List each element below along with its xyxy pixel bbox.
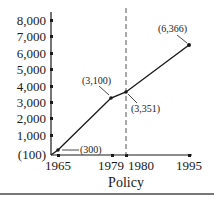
x-tick-label: 1995 <box>176 158 202 173</box>
y-tick-label: 6,000 <box>17 46 46 61</box>
x-tick-label: 1979 <box>98 158 124 173</box>
bottom-rule <box>0 193 214 195</box>
y-tick-labels: 8,000 7,000 6,000 5,000 4,000 3,000 2,00… <box>17 13 46 162</box>
chart: 8,000 7,000 6,000 5,000 4,000 3,000 2,00… <box>0 0 214 197</box>
y-tick-label: 5,000 <box>17 62 46 77</box>
annotation-label: (3,100) <box>82 75 111 87</box>
data-line <box>51 45 189 155</box>
x-tick-labels: 1965 1979 1980 1995 <box>45 158 202 173</box>
y-tick-label: 3,000 <box>17 95 46 110</box>
y-tick-label: (100) <box>18 147 46 162</box>
y-tick-label: 8,000 <box>17 13 46 28</box>
y-tick-label: 2,000 <box>17 111 46 126</box>
annotation-label: (3,351) <box>131 103 160 115</box>
x-tick-label: 1980 <box>128 158 154 173</box>
y-tick-label: 7,000 <box>17 29 46 44</box>
annotation-label: (6,366) <box>158 23 187 35</box>
annotation-label: (300) <box>80 144 102 156</box>
x-axis-label: Policy <box>108 175 144 190</box>
x-tick-label: 1965 <box>45 158 71 173</box>
y-tick-label: 4,000 <box>17 79 46 94</box>
y-tick-label: 1,000 <box>17 128 46 143</box>
